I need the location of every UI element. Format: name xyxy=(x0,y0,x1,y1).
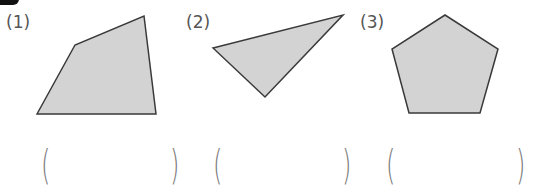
answer-3-open-paren: ( xyxy=(386,145,395,185)
answer-2-open-paren: ( xyxy=(213,145,222,185)
quadrilateral-shape xyxy=(37,16,156,114)
answer-3-close-paren: ) xyxy=(516,145,525,185)
answer-3-field[interactable] xyxy=(401,150,515,188)
pentagon-shape xyxy=(392,15,498,113)
answer-2-close-paren: ) xyxy=(342,145,351,185)
answer-1-field[interactable] xyxy=(56,150,170,188)
answer-1-open-paren: ( xyxy=(41,145,50,185)
answer-2-field[interactable] xyxy=(228,150,342,188)
answer-1-close-paren: ) xyxy=(170,145,179,185)
triangle-shape xyxy=(213,15,343,97)
